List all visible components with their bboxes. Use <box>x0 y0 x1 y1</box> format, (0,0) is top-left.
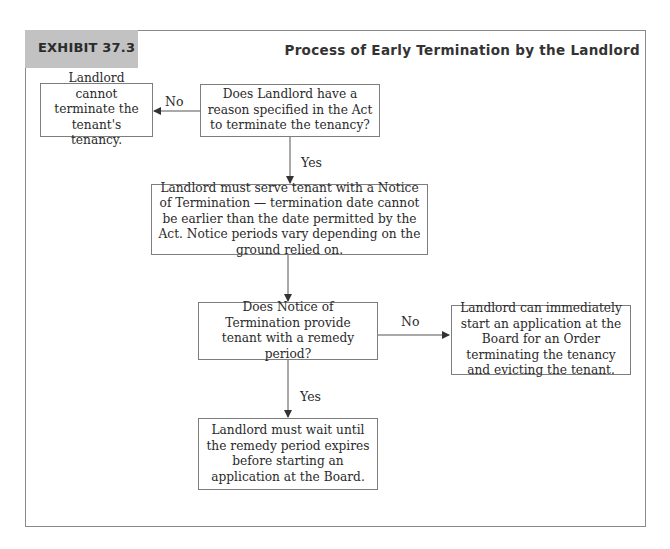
node-reason-question-text: Does Landlord have a reason specified in… <box>205 87 375 134</box>
node-reason-question: Does Landlord have a reason specified in… <box>200 84 380 137</box>
edge-label-remedy-yes: Yes <box>300 389 321 404</box>
node-serve-notice: Landlord must serve tenant with a Notice… <box>151 184 428 255</box>
node-immediate-application-text: Landlord can immediately start an applic… <box>456 301 626 379</box>
edge-label-reason-no: No <box>165 94 183 109</box>
edge-label-remedy-no: No <box>401 314 419 329</box>
exhibit-tab: EXHIBIT 37.3 <box>25 30 138 68</box>
node-cannot-terminate: Landlord cannot terminate the tenant's t… <box>40 83 153 137</box>
node-wait-remedy-text: Landlord must wait until the remedy peri… <box>203 423 373 485</box>
exhibit-title: Process of Early Termination by the Land… <box>284 42 640 58</box>
node-wait-remedy: Landlord must wait until the remedy peri… <box>198 418 378 490</box>
node-cannot-terminate-text: Landlord cannot terminate the tenant's t… <box>45 71 148 149</box>
edge-label-reason-yes: Yes <box>301 155 322 170</box>
node-remedy-question-text: Does Notice of Termination provide tenan… <box>203 300 373 362</box>
node-immediate-application: Landlord can immediately start an applic… <box>451 305 631 375</box>
node-remedy-question: Does Notice of Termination provide tenan… <box>198 302 378 360</box>
node-serve-notice-text: Landlord must serve tenant with a Notice… <box>156 181 423 259</box>
